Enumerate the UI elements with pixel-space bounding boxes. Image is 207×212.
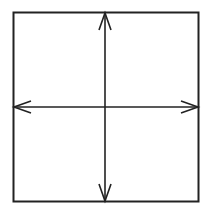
- horizontal-double-arrow: [14, 101, 198, 113]
- diagram-canvas: [0, 0, 207, 212]
